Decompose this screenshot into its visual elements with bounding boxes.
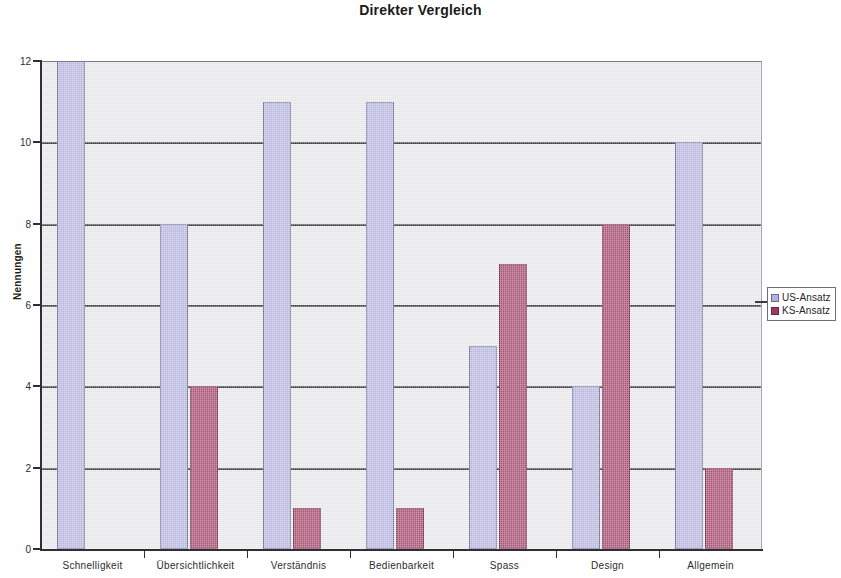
bar-texture [58, 62, 84, 548]
bar [190, 386, 218, 549]
bar-texture [367, 103, 393, 548]
bar [263, 102, 291, 549]
x-axis-tick [556, 551, 557, 558]
bar-texture [470, 347, 496, 548]
x-axis-tick [144, 551, 145, 558]
y-axis-tick-label: 0 [7, 544, 31, 555]
bar [366, 102, 394, 549]
bar-chart: Direkter Vergleich Nennungen 024681012 S… [0, 0, 841, 578]
gridline [42, 305, 761, 307]
bar-texture [264, 103, 290, 548]
bar [469, 346, 497, 549]
gridline [42, 142, 761, 144]
legend-item[interactable]: KS-Ansatz [771, 304, 831, 317]
bar [499, 264, 527, 549]
x-axis-tick [659, 551, 660, 558]
y-axis-tick [33, 467, 42, 469]
y-axis-tick [33, 223, 42, 225]
bar [396, 508, 424, 549]
y-axis-tick-label: 6 [7, 300, 31, 311]
gridline [42, 386, 761, 388]
legend-swatch-icon [771, 294, 779, 302]
legend-swatch-icon [771, 307, 779, 315]
y-axis-tick [33, 60, 42, 62]
y-axis-tick [33, 548, 42, 550]
bar [293, 508, 321, 549]
legend-item-label: KS-Ansatz [782, 305, 830, 316]
bar-texture [191, 387, 217, 548]
y-axis-tick [33, 385, 42, 387]
gridline [42, 468, 761, 470]
bar [602, 224, 630, 549]
y-axis-tick-label: 12 [7, 56, 31, 67]
x-axis-tick-label: Verständnis [271, 560, 327, 571]
x-axis-tick-label: Allgemein [687, 560, 734, 571]
x-axis-tick-label: Bedienbarkeit [369, 560, 434, 571]
legend-item[interactable]: US-Ansatz [771, 291, 831, 304]
y-axis-tick-labels: 024681012 [0, 0, 31, 578]
x-axis-line [40, 549, 763, 551]
bar [160, 224, 188, 549]
bar-texture [161, 225, 187, 548]
x-axis-tick [247, 551, 248, 558]
bar-texture [397, 509, 423, 548]
plot-area [41, 61, 762, 549]
x-axis-tick-label: Übersichtlichkeit [157, 560, 235, 571]
bar-texture [603, 225, 629, 548]
legend-connector-line [755, 301, 767, 303]
x-axis-tick-label: Design [591, 560, 624, 571]
bar-texture [500, 265, 526, 548]
y-axis-tick [33, 141, 42, 143]
bar-texture [573, 387, 599, 548]
chart-title: Direkter Vergleich [0, 2, 841, 18]
bar-texture [676, 143, 702, 548]
bar-texture [706, 469, 732, 548]
legend-item-label: US-Ansatz [782, 292, 831, 303]
bar-texture [294, 509, 320, 548]
x-axis-tick [350, 551, 351, 558]
x-axis-tick-label: Schnelligkeit [62, 560, 122, 571]
y-axis-tick-label: 4 [7, 381, 31, 392]
bar [57, 61, 85, 549]
gridline [42, 224, 761, 226]
x-axis-tick-label: Spass [490, 560, 519, 571]
y-axis-tick-label: 2 [7, 462, 31, 473]
y-axis-tick-label: 10 [7, 137, 31, 148]
bar [572, 386, 600, 549]
y-axis-tick [33, 304, 42, 306]
x-axis-tick [453, 551, 454, 558]
bar [705, 468, 733, 549]
legend: US-Ansatz KS-Ansatz [767, 287, 836, 321]
y-axis-tick-label: 8 [7, 218, 31, 229]
bar [675, 142, 703, 549]
